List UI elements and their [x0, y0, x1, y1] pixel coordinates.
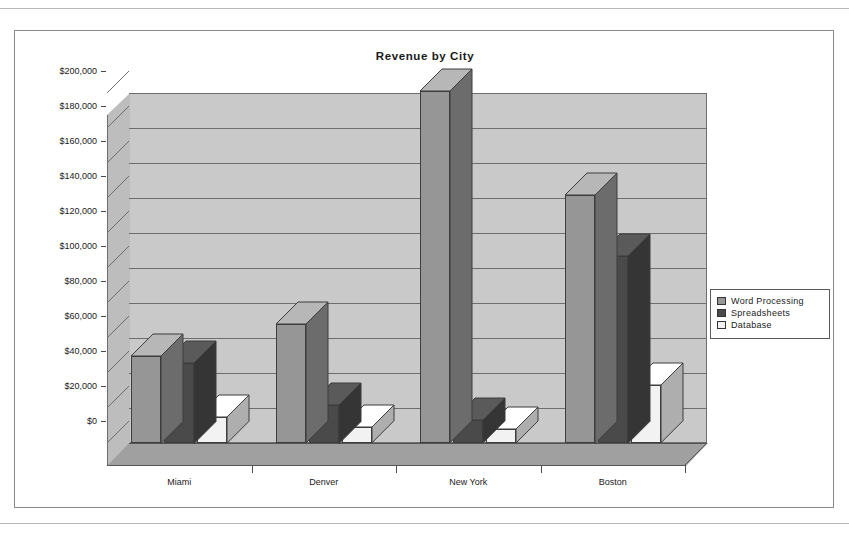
side-wall-depth-line — [107, 281, 131, 304]
bar-denver-spreadsheets — [309, 405, 339, 444]
bar-front-face — [486, 429, 516, 443]
bar-miami-database — [197, 417, 227, 443]
y-axis-tick — [101, 141, 106, 142]
gridline — [129, 128, 707, 129]
x-axis-label: Boston — [599, 477, 627, 487]
bar-boston-spreadsheets — [598, 256, 628, 443]
legend-swatch-spreadsheets — [717, 309, 726, 317]
bar-front-face — [197, 417, 227, 443]
y-axis-label: $180,000 — [9, 101, 97, 111]
legend-swatch-database — [717, 321, 726, 329]
gridline — [129, 198, 707, 199]
bar-new-york-word-processing — [420, 91, 450, 443]
side-wall-depth-line — [107, 71, 131, 94]
y-axis-label: $40,000 — [9, 346, 97, 356]
side-wall-depth-line — [107, 106, 131, 129]
y-axis-tick — [101, 386, 106, 387]
bar-front-face — [420, 91, 450, 443]
legend-swatch-word-processing — [717, 297, 726, 305]
y-axis-tick — [101, 421, 106, 422]
y-axis-label: $80,000 — [9, 276, 97, 286]
plot-floor-right-edge — [685, 443, 709, 466]
plot-floor — [107, 443, 708, 466]
bar-miami-spreadsheets — [164, 363, 194, 444]
bar-front-face — [565, 195, 595, 444]
page-bottom-rule — [0, 523, 849, 524]
y-axis-label: $100,000 — [9, 241, 97, 251]
y-axis-tick — [101, 71, 106, 72]
bar-denver-database — [342, 427, 372, 443]
bar-miami-word-processing — [131, 356, 161, 444]
x-axis-tick — [541, 466, 542, 473]
side-wall-depth-line — [107, 316, 131, 339]
y-axis-tick — [101, 176, 106, 177]
legend-label-database: Database — [731, 320, 772, 330]
chart-frame: Revenue by City $0$20,000$40,000$60,000$… — [14, 30, 834, 508]
y-axis-label: $0 — [9, 416, 97, 426]
x-axis-tick — [252, 466, 253, 473]
bar-new-york-database — [486, 429, 516, 443]
side-wall-depth-line — [107, 141, 131, 164]
bar-denver-word-processing — [276, 324, 306, 443]
side-wall-depth-line — [107, 246, 131, 269]
y-axis-label: $140,000 — [9, 171, 97, 181]
chart-title: Revenue by City — [15, 50, 835, 62]
legend-item-spreadsheets: Spreadsheets — [717, 308, 823, 318]
x-axis-tick — [685, 466, 686, 473]
x-axis-label: Denver — [309, 477, 338, 487]
side-wall-depth-line — [107, 421, 131, 444]
y-axis-tick — [101, 106, 106, 107]
plot-floor-back-edge — [129, 443, 707, 444]
legend-label-spreadsheets: Spreadsheets — [731, 308, 790, 318]
side-wall-depth-line — [107, 176, 131, 199]
y-axis-label: $20,000 — [9, 381, 97, 391]
x-axis-tick — [396, 466, 397, 473]
gridline — [129, 233, 707, 234]
bar-front-face — [309, 405, 339, 444]
bar-boston-database — [631, 385, 661, 443]
side-wall-depth-line — [107, 351, 131, 374]
page-top-rule — [0, 8, 849, 9]
legend-label-word-processing: Word Processing — [731, 296, 804, 306]
x-axis-label: Miami — [167, 477, 191, 487]
bar-front-face — [453, 420, 483, 443]
gridline — [129, 163, 707, 164]
bar-front-face — [276, 324, 306, 443]
legend-item-database: Database — [717, 320, 823, 330]
bar-front-face — [164, 363, 194, 444]
y-axis-tick — [101, 246, 106, 247]
bar-front-face — [598, 256, 628, 443]
bar-front-face — [342, 427, 372, 443]
y-axis-tick — [101, 211, 106, 212]
bar-front-face — [131, 356, 161, 444]
y-axis-label: $120,000 — [9, 206, 97, 216]
y-axis-tick — [101, 281, 106, 282]
gridline — [129, 93, 707, 94]
y-axis-tick — [101, 316, 106, 317]
chart-legend: Word Processing Spreadsheets Database — [710, 289, 830, 339]
y-axis-tick — [101, 351, 106, 352]
bar-new-york-spreadsheets — [453, 420, 483, 443]
legend-item-word-processing: Word Processing — [717, 296, 823, 306]
y-axis-label: $160,000 — [9, 136, 97, 146]
y-axis-label: $200,000 — [9, 66, 97, 76]
x-axis-label: New York — [449, 477, 487, 487]
y-axis-label: $60,000 — [9, 311, 97, 321]
bar-boston-word-processing — [565, 195, 595, 444]
side-wall-depth-line — [107, 211, 131, 234]
bar-front-face — [631, 385, 661, 443]
side-wall-depth-line — [107, 386, 131, 409]
